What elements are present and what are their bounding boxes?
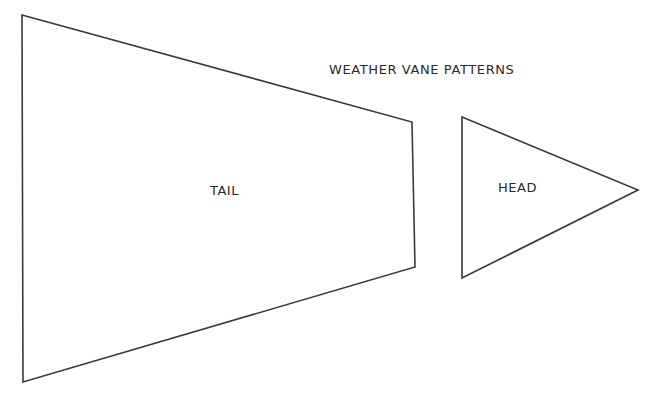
pattern-drawing bbox=[0, 0, 664, 395]
head-pattern-shape bbox=[462, 117, 638, 278]
diagram-title: WEATHER VANE PATTERNS bbox=[329, 62, 514, 77]
head-label: HEAD bbox=[498, 180, 537, 195]
tail-label: TAIL bbox=[210, 183, 239, 198]
diagram-canvas: WEATHER VANE PATTERNS TAIL HEAD bbox=[0, 0, 664, 395]
